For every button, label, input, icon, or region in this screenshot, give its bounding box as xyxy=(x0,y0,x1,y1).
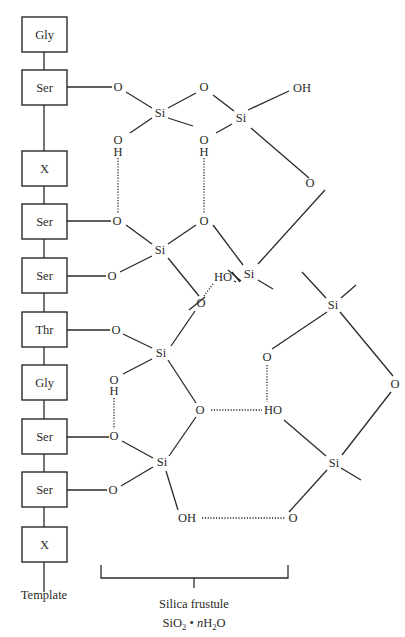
residue-label: Ser xyxy=(36,81,54,95)
atom-oxygen: O xyxy=(108,483,117,497)
atom-oxygen: O xyxy=(195,403,204,417)
residue-box-ser-2: Ser xyxy=(22,204,67,239)
atom-silicon: Si xyxy=(328,298,339,312)
atom-oxygen: O xyxy=(113,80,122,94)
atom-hydroxyl: OH xyxy=(293,81,311,95)
residue-box-ser-4: Ser xyxy=(22,419,67,454)
atom-hydroxyl: HO xyxy=(264,403,282,417)
residue-label: X xyxy=(40,162,49,176)
side-chain-bonds xyxy=(67,87,112,490)
atom-silicon: Si xyxy=(236,111,247,125)
residue-box-thr: Thr xyxy=(22,312,67,347)
atom-silicon: Si xyxy=(156,346,167,360)
residue-box-ser-3: Ser xyxy=(22,258,67,293)
atom-silicon: Si xyxy=(329,456,340,470)
atom-hydrogen: H xyxy=(109,384,118,398)
atom-silicon: Si xyxy=(155,243,166,257)
residue-label: Ser xyxy=(36,269,54,283)
atom-oxygen: O xyxy=(196,296,205,310)
residue-label: Ser xyxy=(36,430,54,444)
atom-oxygen: O xyxy=(112,214,121,228)
residue-box-ser-5: Ser xyxy=(22,472,67,507)
residue-label: Thr xyxy=(35,323,54,337)
residue-box-ser-1: Ser xyxy=(22,70,67,105)
residue-box-x-2: X xyxy=(22,527,67,562)
atom-oxygen: O xyxy=(199,80,208,94)
residue-label: Ser xyxy=(36,483,54,497)
residue-box-gly-1: Gly xyxy=(22,17,67,52)
residue-label: Gly xyxy=(35,376,55,390)
atom-oxygen: O xyxy=(262,350,271,364)
atom-hydrogen: H xyxy=(199,145,208,159)
residue-label: Gly xyxy=(35,28,55,42)
atom-oxygen: O xyxy=(199,214,208,228)
atom-labels: O Si O Si OH O H O H O O Si O Si HO O O … xyxy=(107,80,399,525)
template-label: Template xyxy=(21,588,68,602)
residue-label: X xyxy=(40,538,49,552)
frustule-bracket xyxy=(101,565,288,588)
atom-hydroxyl: OH xyxy=(178,511,196,525)
silica-bonds xyxy=(120,91,393,512)
residue-box-gly-2: Gly xyxy=(22,365,67,400)
frustule-label: Silica frustule xyxy=(159,597,229,611)
atom-silicon: Si xyxy=(155,106,166,120)
frustule-formula: SiO2 • nH2O xyxy=(163,616,226,632)
atom-hydrogen: H xyxy=(113,145,122,159)
hydrogen-bonds xyxy=(114,158,285,518)
atom-hydroxyl: HO xyxy=(214,270,232,284)
atom-silicon: Si xyxy=(244,267,255,281)
atom-oxygen: O xyxy=(107,269,116,283)
residue-box-x-1: X xyxy=(22,151,67,186)
residue-label: Ser xyxy=(36,215,54,229)
atom-oxygen: O xyxy=(390,377,399,391)
atom-oxygen: O xyxy=(305,176,314,190)
silica-template-diagram: Gly Ser X Ser Ser Thr Gly Ser Ser X xyxy=(0,0,405,637)
atom-oxygen: O xyxy=(288,511,297,525)
atom-oxygen: O xyxy=(111,323,120,337)
atom-oxygen: O xyxy=(109,429,118,443)
atom-silicon: Si xyxy=(157,455,168,469)
